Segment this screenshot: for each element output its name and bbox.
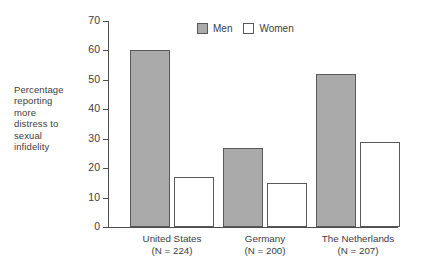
y-axis-label-line-4: distress to — [14, 118, 86, 129]
bar-women-the-netherlands — [360, 142, 400, 227]
y-tick-70 — [103, 21, 108, 22]
y-axis-label-line-1: Percentage — [14, 84, 86, 95]
bar-men-germany — [223, 148, 263, 227]
x-axis-line — [108, 227, 398, 228]
y-tick-label-0: 0 — [94, 220, 100, 232]
bar-men-the-netherlands — [316, 74, 356, 227]
y-axis-label-line-5: sexual — [14, 130, 86, 141]
y-axis-label: Percentage reporting more distress to se… — [14, 84, 86, 152]
x-tick-label-name-2: The Netherlands — [298, 233, 418, 245]
y-tick-30 — [103, 139, 108, 140]
y-tick-label-40: 40 — [88, 102, 100, 114]
y-tick-label-60: 60 — [88, 43, 100, 55]
y-tick-label-50: 50 — [88, 73, 100, 85]
y-axis-label-line-3: more — [14, 107, 86, 118]
y-tick-40 — [103, 109, 108, 110]
y-axis-label-line-2: reporting — [14, 95, 86, 106]
plot-area: 0 10 20 30 40 50 60 70 — [108, 21, 393, 227]
bar-chart-figure: Percentage reporting more distress to se… — [0, 0, 427, 278]
y-tick-label-70: 70 — [88, 14, 100, 26]
y-tick-50 — [103, 80, 108, 81]
y-tick-label-20: 20 — [88, 161, 100, 173]
y-tick-20 — [103, 168, 108, 169]
x-tick-label-n-2: (N = 207) — [298, 245, 418, 257]
y-tick-label-30: 30 — [88, 132, 100, 144]
y-tick-0 — [103, 227, 108, 228]
y-tick-10 — [103, 198, 108, 199]
y-axis-label-line-6: infidelity — [14, 141, 86, 152]
y-axis-line — [108, 21, 109, 227]
bar-women-united-states — [174, 177, 214, 227]
bar-men-united-states — [130, 50, 170, 227]
y-tick-label-10: 10 — [88, 191, 100, 203]
bar-women-germany — [267, 183, 307, 227]
x-tick-label-the-netherlands: The Netherlands (N = 207) — [298, 233, 418, 256]
y-tick-60 — [103, 50, 108, 51]
